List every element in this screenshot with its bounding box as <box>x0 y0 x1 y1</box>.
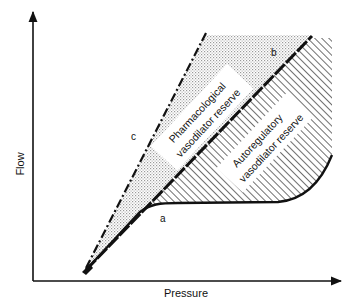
y-axis-label: Flow <box>14 152 26 175</box>
x-axis-label: Pressure <box>164 287 208 299</box>
curve-a-label: a <box>160 213 166 224</box>
curve-c-label: c <box>131 131 136 142</box>
curve-b-label: b <box>271 47 277 58</box>
pressure-flow-diagram: Flow Pressure a b c Pharmacological vaso… <box>0 0 364 307</box>
